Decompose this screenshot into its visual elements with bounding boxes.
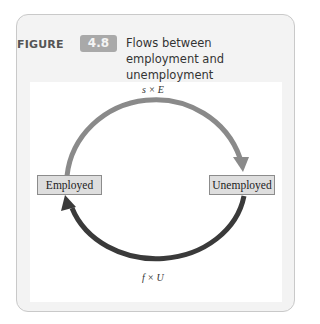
- separation-flow-label: s × E: [142, 84, 164, 95]
- unemployed-box: Unemployed: [209, 175, 275, 195]
- arrowhead-down-icon: [233, 157, 249, 172]
- job-finding-flow-label: f × U: [142, 272, 164, 283]
- separation-flow-arrow: [67, 100, 240, 176]
- employed-box: Employed: [37, 175, 102, 195]
- job-finding-flow-arrow: [72, 196, 244, 259]
